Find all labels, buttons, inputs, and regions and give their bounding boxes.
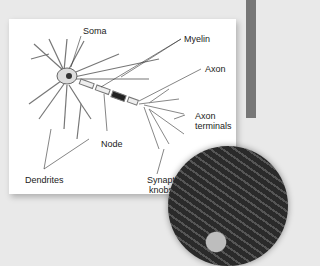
background-panel bbox=[246, 0, 256, 118]
label-soma: Soma bbox=[83, 26, 107, 36]
label-myelin: Myelin bbox=[184, 34, 210, 44]
label-axon: Axon bbox=[205, 64, 226, 74]
label-node: Node bbox=[101, 139, 123, 149]
label-axon-terminals-2: terminals bbox=[195, 121, 232, 131]
label-dendrites: Dendrites bbox=[25, 175, 64, 185]
electron-micrograph-inset bbox=[168, 146, 288, 266]
label-axon-terminals-1: Axon bbox=[195, 111, 216, 121]
